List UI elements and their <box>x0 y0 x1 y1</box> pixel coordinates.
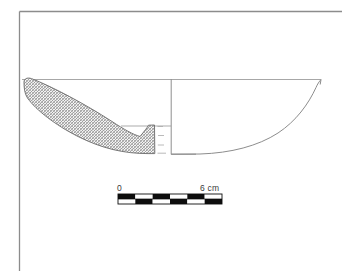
scale-segment-top-5 <box>187 194 204 199</box>
scale-label-min: 0 <box>117 184 122 193</box>
scale-bar <box>0 0 342 271</box>
scale-segment-top-1 <box>118 194 135 199</box>
scale-segment-bottom-3 <box>153 199 170 204</box>
scale-segment-bottom-2 <box>135 199 152 204</box>
scale-label-max: 6 cm <box>200 184 219 193</box>
figure-root: 0 6 cm <box>0 0 342 271</box>
scale-segment-bottom-6 <box>205 199 222 204</box>
scale-segment-bottom-1 <box>118 199 135 204</box>
scale-segment-top-4 <box>170 194 187 199</box>
scale-segment-bottom-4 <box>170 199 187 204</box>
scale-segment-top-2 <box>135 194 152 199</box>
scale-segment-top-6 <box>205 194 222 199</box>
scale-segment-top-3 <box>153 194 170 199</box>
scale-segment-bottom-5 <box>187 199 204 204</box>
